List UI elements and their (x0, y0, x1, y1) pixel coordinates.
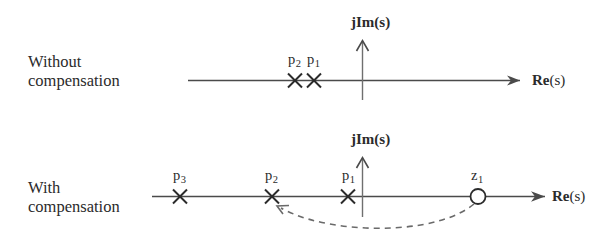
figure-root: Without compensation jIm(s) Re(s) p2 p1 (0, 0, 596, 237)
s-plane-bottom (0, 0, 596, 237)
compensation-shift-dashed-curve (281, 204, 474, 228)
zero-marker-z1-bottom (471, 189, 486, 204)
